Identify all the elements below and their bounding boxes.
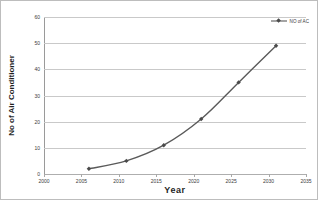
data-point-marker xyxy=(124,159,128,163)
y-axis-tick-label: 40 xyxy=(34,67,40,72)
x-axis-tick-label: 2005 xyxy=(76,179,87,184)
y-axis-title-text: No of Air Conditioner xyxy=(7,55,16,136)
chart-legend: NO of AC xyxy=(271,18,309,24)
x-axis-tick xyxy=(231,174,232,177)
x-axis-tick-label: 2020 xyxy=(188,179,199,184)
x-axis-tick xyxy=(269,174,270,177)
y-axis-tick-label: 10 xyxy=(34,145,40,150)
x-axis-tick xyxy=(119,174,120,177)
x-axis-tick-label: 2010 xyxy=(113,179,124,184)
x-axis-title: Year xyxy=(44,185,306,195)
x-axis-tick xyxy=(44,174,45,177)
y-axis-tick-label: 0 xyxy=(37,172,40,177)
y-axis-tick-label: 60 xyxy=(34,15,40,20)
x-axis-tick-label: 2015 xyxy=(151,179,162,184)
x-axis-tick xyxy=(156,174,157,177)
x-axis-tick-label: 2025 xyxy=(226,179,237,184)
x-axis-tick-label: 2035 xyxy=(300,179,311,184)
x-axis-tick-label: 2030 xyxy=(263,179,274,184)
data-point-marker xyxy=(87,167,91,171)
series-layer xyxy=(44,17,306,174)
y-axis-tick-label: 20 xyxy=(34,119,40,124)
plot-area: 0102030405060 20002005201020152020202520… xyxy=(44,17,306,174)
chart-figure: No of Air Conditioner 0102030405060 2000… xyxy=(0,0,318,200)
y-axis-title: No of Air Conditioner xyxy=(5,17,17,174)
legend-label: NO of AC xyxy=(290,19,309,24)
x-axis-tick xyxy=(306,174,307,177)
legend-line-marker-icon xyxy=(271,18,287,24)
x-axis-tick xyxy=(81,174,82,177)
y-axis-tick-label: 30 xyxy=(34,93,40,98)
x-axis-tick xyxy=(194,174,195,177)
gridline xyxy=(44,174,306,175)
series-line xyxy=(89,46,276,169)
x-axis-tick-label: 2000 xyxy=(38,179,49,184)
y-axis-tick-label: 50 xyxy=(34,41,40,46)
